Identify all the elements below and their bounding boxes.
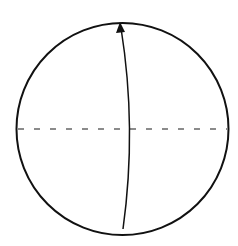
meridian-arrow-path bbox=[121, 28, 130, 229]
diagram-svg bbox=[0, 0, 238, 246]
diagram-canvas bbox=[0, 0, 238, 246]
